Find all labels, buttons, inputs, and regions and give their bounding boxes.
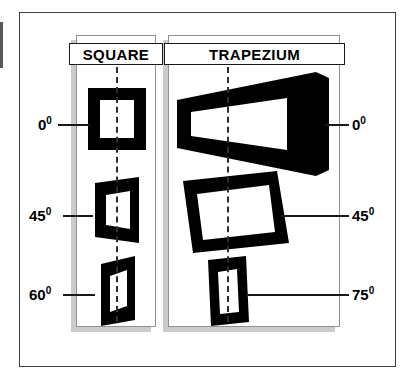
leader-line-left-0 xyxy=(58,124,90,126)
angle-label-left-0: 00 xyxy=(38,116,52,133)
square-panel-title: SQUARE xyxy=(83,46,150,63)
angle-label-right-45-value: 45 xyxy=(352,207,369,224)
degree-icon: 0 xyxy=(369,206,375,217)
angle-label-right-75-value: 75 xyxy=(352,286,369,303)
degree-icon: 0 xyxy=(360,115,366,126)
angle-label-left-60-value: 60 xyxy=(29,286,46,303)
square-panel-title-plate: SQUARE xyxy=(69,43,163,65)
square-panel-center-axis xyxy=(116,67,118,322)
angle-label-left-45: 450 xyxy=(29,207,51,224)
left-edge-mark xyxy=(0,22,3,68)
trapezium-at-45-degrees xyxy=(183,171,289,253)
degree-icon: 0 xyxy=(46,285,52,296)
angle-label-left-60: 600 xyxy=(29,286,51,303)
figure-root: 00 450 600 00 450 750 SQUARE TRAPEZIUM xyxy=(0,0,409,379)
trapezium-panel-center-axis xyxy=(227,67,229,322)
leader-line-right-0 xyxy=(325,124,349,126)
angle-label-right-75: 750 xyxy=(352,286,374,303)
trapezium-panel-title-plate: TRAPEZIUM xyxy=(164,43,345,65)
trapezium-panel-title: TRAPEZIUM xyxy=(209,46,300,63)
leader-line-right-75 xyxy=(246,294,349,296)
leader-line-left-45 xyxy=(63,215,93,217)
angle-label-right-45: 450 xyxy=(352,207,374,224)
angle-label-left-45-value: 45 xyxy=(29,207,46,224)
degree-icon: 0 xyxy=(46,115,52,126)
leader-line-right-45 xyxy=(281,215,349,217)
degree-icon: 0 xyxy=(369,285,375,296)
leader-line-left-60 xyxy=(63,294,95,296)
angle-label-right-0: 00 xyxy=(352,116,366,133)
trapezium-at-0-degrees xyxy=(177,72,329,176)
degree-icon: 0 xyxy=(46,206,52,217)
